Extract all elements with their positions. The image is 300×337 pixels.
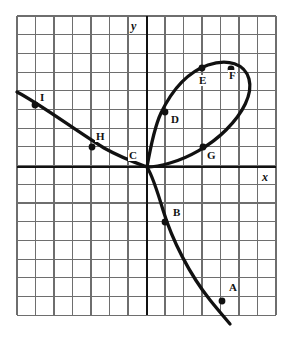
x-axis-label: x	[262, 171, 268, 183]
marker-D	[162, 109, 169, 116]
marker-B	[162, 219, 169, 226]
marker-H	[89, 144, 96, 151]
marker-E	[199, 65, 206, 72]
point-label-D: D	[170, 114, 180, 125]
point-label-C: C	[128, 150, 138, 161]
figure-canvas: y x A B C D E F G H I	[0, 0, 300, 337]
point-label-A: A	[228, 282, 238, 293]
coordinate-plane-graph	[0, 0, 300, 337]
point-label-B: B	[172, 207, 181, 218]
marker-I	[32, 102, 39, 109]
point-label-G: G	[206, 150, 217, 161]
curve-open-branch	[17, 92, 230, 324]
y-axis-label: y	[131, 20, 136, 32]
point-label-H: H	[95, 131, 106, 142]
point-label-I: I	[39, 92, 45, 103]
point-label-E: E	[198, 75, 207, 86]
point-label-F: F	[228, 70, 237, 81]
marker-A	[219, 298, 226, 305]
